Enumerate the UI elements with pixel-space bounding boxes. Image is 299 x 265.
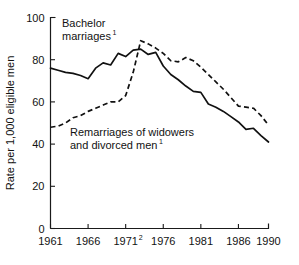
y-axis-line	[51, 18, 56, 229]
x-axis-tick-label: 1986	[226, 235, 250, 247]
x-axis-line	[51, 224, 269, 229]
x-axis-tick-labels: 19611966197121976198119861990	[38, 234, 280, 247]
annotation-bachelor-line1: Bachelor	[62, 17, 106, 29]
y-axis-tick-label: 20	[32, 180, 44, 192]
annotation-bachelor-marriages: Bachelor marriages 1	[62, 17, 116, 42]
x-axis-tick-label: 1971	[113, 235, 137, 247]
annotation-remarriages-line1: Remarriages of widowers	[70, 126, 195, 138]
x-axis-tick-label: 1961	[38, 235, 62, 247]
y-axis-tick-label: 40	[32, 138, 44, 150]
x-axis-tick-label: 1981	[189, 235, 213, 247]
series-line-remarriages	[51, 41, 269, 128]
x-axis-tick-label: 1990	[256, 235, 280, 247]
y-axis-tick-label: 60	[32, 96, 44, 108]
annotation-remarriages: Remarriages of widowers and divorced men…	[70, 126, 195, 151]
y-axis-title: Rate per 1,000 eligible men	[4, 56, 16, 191]
line-chart-canvas: 020406080100 196119661971219761981198619…	[0, 0, 299, 265]
y-axis-tick-label: 0	[38, 223, 44, 235]
x-axis-tick-label: 1966	[76, 235, 100, 247]
x-axis-ticks	[51, 224, 239, 229]
chart-figure: 020406080100 196119661971219761981198619…	[0, 0, 299, 265]
x-axis-tick-label-superscript: 2	[139, 234, 143, 241]
y-axis-tick-label: 100	[26, 12, 44, 24]
annotation-remarriages-line2: and divorced men	[70, 139, 157, 151]
x-axis-tick-label: 1976	[151, 235, 175, 247]
y-axis-tick-label: 80	[32, 54, 44, 66]
annotation-bachelor-line2: marriages	[62, 30, 111, 42]
y-axis-ticks	[51, 18, 56, 229]
annotation-remarriages-superscript: 1	[159, 138, 163, 145]
y-axis-tick-labels: 020406080100	[26, 12, 44, 235]
annotation-bachelor-superscript: 1	[112, 29, 116, 36]
